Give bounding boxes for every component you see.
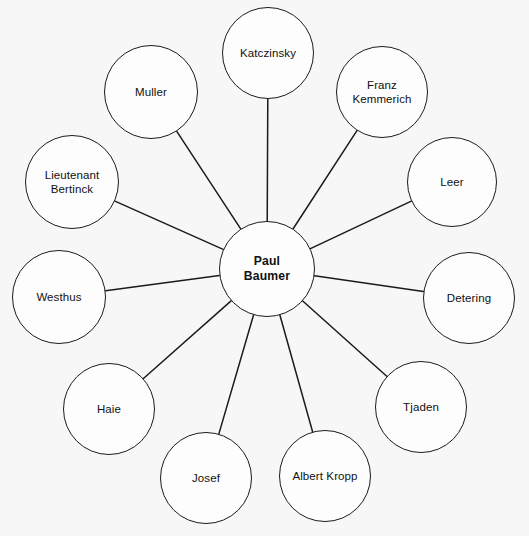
node-leer-label: Leer: [434, 175, 469, 189]
node-albert-kropp-label: Albert Kropp: [286, 469, 363, 483]
node-albert-kropp[interactable]: Albert Kropp: [279, 430, 371, 522]
edge-center-to-josef: [219, 315, 254, 434]
node-detering-label: Detering: [441, 291, 497, 305]
node-westhus-label: Westhus: [30, 290, 87, 304]
node-detering[interactable]: Detering: [423, 252, 515, 344]
node-katczinsky[interactable]: Katczinsky: [222, 7, 314, 99]
edge-center-to-muller: [177, 131, 241, 229]
node-center-paul-baumer[interactable]: Paul Baumer: [219, 221, 315, 317]
node-josef[interactable]: Josef: [160, 432, 252, 524]
node-lieutenant-bertinck-label: Lieutenant Bertinck: [39, 168, 106, 196]
edge-center-to-westhus: [106, 275, 220, 290]
node-franz-kemmerich-label: Franz Kemmerich: [346, 78, 417, 106]
node-haie-label: Haie: [91, 402, 127, 416]
node-tjaden[interactable]: Tjaden: [375, 361, 467, 453]
edge-center-to-tjaden: [303, 301, 387, 376]
edge-center-to-franz-kemmerich: [293, 131, 357, 229]
edge-center-to-haie: [143, 301, 231, 379]
node-muller-label: Muller: [129, 85, 173, 99]
node-haie[interactable]: Haie: [63, 363, 155, 455]
node-center-paul-baumer-label: Paul Baumer: [238, 254, 296, 284]
node-leer[interactable]: Leer: [407, 137, 497, 227]
edge-center-to-lieutenant-bertinck: [115, 201, 223, 249]
node-muller[interactable]: Muller: [104, 45, 198, 139]
node-katczinsky-label: Katczinsky: [234, 46, 302, 60]
node-westhus[interactable]: Westhus: [12, 250, 106, 344]
node-josef-label: Josef: [186, 471, 226, 485]
node-franz-kemmerich[interactable]: Franz Kemmerich: [336, 46, 428, 138]
node-tjaden-label: Tjaden: [397, 400, 445, 414]
edge-center-to-albert-kropp: [280, 315, 313, 431]
edge-center-to-katczinsky: [267, 99, 268, 221]
node-lieutenant-bertinck[interactable]: Lieutenant Bertinck: [25, 135, 119, 229]
edge-center-to-leer: [310, 201, 411, 248]
character-map-diagram: KatczinskyFranz KemmerichLeerDeteringTja…: [0, 0, 529, 536]
edge-center-to-detering: [315, 276, 424, 292]
